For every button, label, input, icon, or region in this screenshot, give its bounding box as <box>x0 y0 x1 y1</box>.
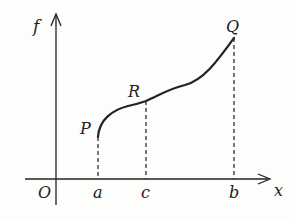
function-curve <box>98 38 234 137</box>
origin-label: O <box>38 183 51 202</box>
function-graph: f x O P R Q a c b <box>0 0 289 221</box>
diagram-canvas: f x O P R Q a c b <box>0 0 289 221</box>
point-label-q: Q <box>226 17 239 36</box>
tick-label-a: a <box>93 183 103 202</box>
y-axis-label: f <box>31 16 42 36</box>
point-label-p: P <box>79 119 91 138</box>
x-axis-label: x <box>274 181 283 200</box>
tick-label-b: b <box>229 183 239 202</box>
tick-label-c: c <box>141 183 150 202</box>
point-label-r: R <box>127 82 140 101</box>
